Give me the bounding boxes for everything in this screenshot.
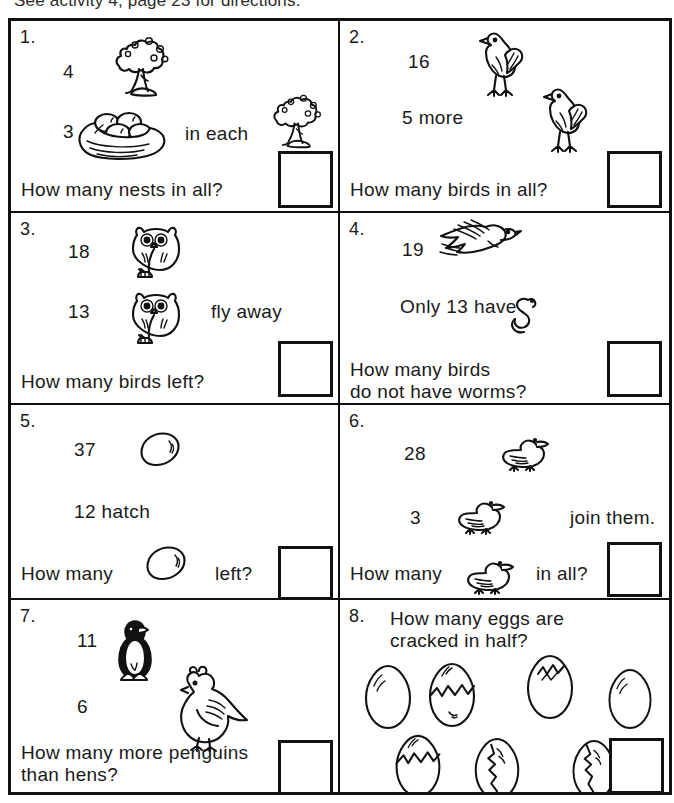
answer-box-6[interactable]	[607, 542, 662, 597]
problem-2-question: How many birds in all?	[350, 179, 548, 201]
problem-number-1: 1.	[20, 27, 36, 48]
problem-number-2: 2.	[349, 27, 365, 48]
problem-6-top-value: 28	[404, 443, 426, 465]
answer-box-3[interactable]	[278, 341, 333, 397]
flying-bird-icon	[430, 215, 526, 277]
answer-box-2[interactable]	[607, 151, 662, 208]
answer-box-4[interactable]	[607, 341, 662, 397]
problem-cell-5: 5. 37 12 hatch How many left?	[11, 405, 340, 600]
problem-6-middle-label: join them.	[570, 507, 655, 529]
answer-box-8[interactable]	[609, 738, 664, 792]
egg-icon	[137, 540, 193, 588]
problem-2-second-value: 5 more	[402, 107, 464, 129]
problem-1-middle-label: in each	[185, 123, 248, 145]
problem-7-top-value: 11	[77, 630, 98, 652]
problem-number-8: 8.	[349, 606, 365, 627]
problem-7-question: How many more penguins than hens?	[21, 742, 248, 786]
problem-3-second-value: 13	[68, 301, 90, 323]
problem-number-3: 3.	[20, 219, 36, 240]
problem-8-question: How many eggs are cracked in half?	[390, 608, 564, 652]
worksheet-grid: 1. 4 3 in each	[8, 18, 672, 795]
problem-1-top-value: 4	[63, 61, 74, 83]
directions-note: See activity 4, page 23 for directions.	[14, 0, 301, 9]
duck-icon	[448, 493, 512, 537]
answer-box-5[interactable]	[278, 546, 333, 600]
chicken-icon	[468, 29, 530, 105]
problem-6-question-post: in all?	[536, 563, 588, 585]
problem-1-question: How many nests in all?	[21, 179, 223, 201]
problem-3-question: How many birds left?	[21, 371, 204, 393]
problem-5-question-post: left?	[215, 563, 252, 585]
problem-cell-6: 6. 28 3 join them.	[340, 405, 669, 600]
problem-2-top-value: 16	[408, 51, 430, 73]
problem-cell-7: 7. 11 6	[11, 600, 340, 792]
answer-box-1[interactable]	[278, 151, 333, 208]
egg-icon	[131, 427, 187, 473]
problem-number-4: 4.	[349, 219, 365, 240]
problem-cell-3: 3. 18 13 fly away	[11, 213, 340, 405]
problem-number-5: 5.	[20, 411, 36, 432]
penguin-icon	[109, 618, 161, 684]
answer-box-7[interactable]	[278, 740, 333, 792]
problem-6-question-pre: How many	[350, 563, 442, 585]
owl-icon	[125, 223, 185, 281]
worm-icon	[506, 292, 540, 344]
egg-zigzag-crack-icon	[468, 734, 526, 792]
egg-plain-icon	[358, 662, 418, 732]
duck-icon	[492, 430, 556, 474]
egg-cracked-half-icon	[388, 732, 448, 792]
problem-5-second-value: 12 hatch	[74, 501, 150, 523]
tree-icon	[264, 85, 334, 151]
problem-7-second-value: 6	[77, 696, 88, 718]
egg-cracked-top-icon	[520, 652, 580, 722]
problem-number-6: 6.	[349, 411, 365, 432]
problem-3-top-value: 18	[68, 241, 90, 263]
problem-4-second-value: Only 13 have	[400, 296, 517, 318]
hen-icon	[161, 666, 251, 750]
tree-icon	[105, 27, 183, 99]
problem-cell-2: 2. 16 5 more	[340, 21, 669, 213]
duck-icon	[457, 553, 521, 597]
problem-cell-1: 1. 4 3 in each	[11, 21, 340, 213]
problem-cell-4: 4. 19 Only 13 have	[340, 213, 669, 405]
problem-3-middle-label: fly away	[211, 301, 282, 323]
problem-cell-8: 8. How many eggs are cracked in half?	[340, 600, 669, 792]
nest-icon	[73, 103, 173, 161]
problem-5-top-value: 37	[74, 439, 96, 461]
chicken-icon	[532, 85, 594, 161]
egg-plain-icon	[602, 666, 658, 732]
owl-icon	[125, 289, 185, 347]
egg-cracked-half-icon	[422, 660, 482, 732]
problem-number-7: 7.	[20, 606, 36, 627]
problem-6-second-value: 3	[410, 507, 421, 529]
problem-4-question: How many birds do not have worms?	[350, 359, 527, 403]
problem-5-question-pre: How many	[21, 563, 113, 585]
problem-4-top-value: 19	[402, 239, 424, 261]
